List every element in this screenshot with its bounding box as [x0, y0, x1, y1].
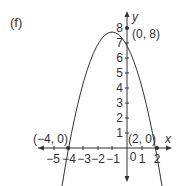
x-axis-right-arrow-icon	[166, 146, 172, 151]
x-tick-label: −4	[62, 152, 76, 166]
x-tick-label: −3	[77, 152, 91, 166]
point-x-intercept-right	[155, 146, 159, 150]
y-tick-label: 3	[116, 96, 123, 110]
point-label-right-intercept: (2, 0)	[128, 132, 156, 146]
point-x-intercept-left	[66, 146, 70, 150]
y-tick-label: 2	[116, 111, 123, 125]
y-tick-label: 5	[116, 66, 123, 80]
point-y-intercept	[125, 26, 129, 30]
y-tick-label: 8	[116, 21, 123, 35]
origin-label: 0	[130, 150, 137, 164]
y-tick-label: 4	[116, 81, 123, 95]
y-axis-label: y	[131, 10, 139, 24]
parabola-diagram: (f) x y −5 −4 −3 −2 −1 0 1 2	[0, 0, 182, 186]
x-tick-label: −1	[106, 152, 120, 166]
panel-label: (f)	[10, 15, 22, 30]
x-axis-left-arrow-icon	[38, 146, 44, 151]
x-tick-labels: −5 −4 −3 −2 −1 0 1 2	[46, 150, 161, 166]
point-label-y-intercept: (0, 8)	[132, 27, 160, 41]
y-tick-label: 1	[116, 126, 123, 140]
x-tick-label: −2	[91, 152, 105, 166]
y-axis-down-arrow-icon	[125, 176, 130, 182]
point-labels: (−4, 0) (2, 0) (0, 8)	[33, 27, 160, 146]
y-axis-up-arrow-icon	[125, 11, 130, 17]
x-axis-label: x	[164, 132, 172, 146]
point-label-left-intercept: (−4, 0)	[33, 132, 68, 146]
x-tick-label: 1	[139, 152, 146, 166]
x-tick-label: −5	[46, 152, 60, 166]
y-tick-label: 6	[116, 51, 123, 65]
